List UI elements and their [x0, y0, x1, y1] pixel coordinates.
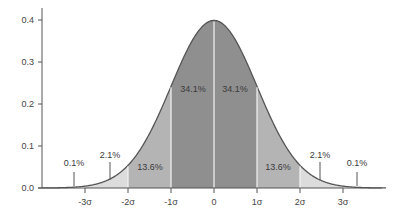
x-tick-label: -2σ: [121, 197, 135, 207]
y-tick-label: 0.0: [21, 183, 34, 193]
region-percentage-label: 0.1%: [64, 158, 85, 168]
region-percentage-label: 34.1%: [222, 84, 248, 94]
y-tick-label: 0.2: [21, 99, 34, 109]
region-3: [171, 20, 214, 188]
y-tick-label: 0.1: [21, 141, 34, 151]
y-axis-ticks: 0.00.10.20.30.4: [21, 15, 42, 193]
normal-distribution-chart: 0.00.10.20.30.4 -3σ-2σ-1σ01σ2σ3σ 0.1%2.1…: [0, 0, 406, 224]
x-tick-label: 0: [211, 197, 216, 207]
region-percentage-label: 0.1%: [347, 158, 368, 168]
x-axis-ticks: -3σ-2σ-1σ01σ2σ3σ: [78, 188, 349, 207]
region-percentage-label: 34.1%: [180, 84, 206, 94]
region-4: [214, 20, 257, 188]
region-percentage-label: 2.1%: [100, 150, 121, 160]
x-tick-label: -1σ: [164, 197, 178, 207]
x-tick-label: 2σ: [295, 197, 306, 207]
region-percentage-label: 13.6%: [137, 162, 163, 172]
x-tick-label: 3σ: [338, 197, 349, 207]
x-tick-label: -3σ: [78, 197, 92, 207]
region-percentage-label: 2.1%: [310, 150, 331, 160]
y-tick-label: 0.4: [21, 15, 34, 25]
x-tick-label: 1σ: [252, 197, 263, 207]
y-tick-label: 0.3: [21, 57, 34, 67]
region-percentage-label: 13.6%: [265, 162, 291, 172]
